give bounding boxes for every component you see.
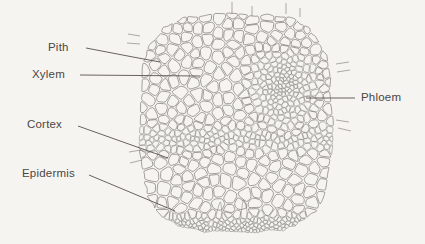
cell xyxy=(281,224,285,228)
cell xyxy=(303,64,309,72)
cell xyxy=(223,204,235,212)
cell xyxy=(310,44,322,55)
cell xyxy=(246,132,252,138)
cell xyxy=(291,62,297,67)
cell xyxy=(182,221,186,226)
cell xyxy=(241,200,247,219)
cell xyxy=(209,142,215,147)
cell xyxy=(245,16,259,25)
cell xyxy=(206,230,209,232)
cell xyxy=(267,126,276,133)
cell xyxy=(181,32,192,42)
cell xyxy=(296,66,303,72)
cell xyxy=(274,215,278,221)
cell xyxy=(213,134,219,139)
cell xyxy=(260,229,264,232)
cell xyxy=(305,208,316,217)
cell xyxy=(245,45,256,55)
cell xyxy=(300,48,309,56)
cell xyxy=(294,84,297,88)
cell xyxy=(255,106,263,113)
cell xyxy=(192,36,203,48)
cell xyxy=(203,22,215,33)
cell xyxy=(156,209,168,217)
cell xyxy=(187,17,197,24)
cell xyxy=(203,89,213,100)
cell xyxy=(278,68,282,73)
cell xyxy=(214,186,226,197)
cell xyxy=(220,142,228,150)
cell xyxy=(242,79,252,89)
cell xyxy=(204,217,210,222)
cell xyxy=(145,181,156,193)
cell xyxy=(200,101,214,112)
cell xyxy=(273,103,278,109)
cell xyxy=(256,229,259,233)
cell xyxy=(181,43,193,54)
cell xyxy=(304,138,311,143)
cell xyxy=(302,80,308,85)
cut-cell-wall xyxy=(128,34,140,36)
label-xylem: Xylem xyxy=(32,68,65,80)
leader-line-pith xyxy=(86,48,160,62)
cell xyxy=(271,133,277,140)
cell xyxy=(144,168,159,181)
cell xyxy=(314,100,324,108)
cell xyxy=(260,81,266,87)
cell xyxy=(256,135,260,140)
cell xyxy=(272,43,280,52)
cell xyxy=(185,211,190,220)
cell xyxy=(257,88,263,95)
cell xyxy=(256,31,268,43)
cell xyxy=(193,152,203,160)
cell xyxy=(161,167,173,181)
cell xyxy=(270,30,282,41)
cell xyxy=(150,130,157,137)
cell xyxy=(237,121,245,130)
cell xyxy=(291,39,300,47)
cell xyxy=(219,78,232,92)
cell xyxy=(177,17,186,24)
cell xyxy=(289,82,293,85)
cell xyxy=(140,102,147,113)
leader-line-xylem xyxy=(80,75,200,76)
cell xyxy=(319,122,327,131)
cell xyxy=(245,117,254,125)
label-cortex: Cortex xyxy=(27,118,62,130)
cell xyxy=(293,22,303,31)
cell xyxy=(251,64,259,72)
cell xyxy=(180,225,184,227)
cell xyxy=(213,93,223,107)
cell xyxy=(258,114,264,122)
cell xyxy=(171,187,182,199)
cell xyxy=(323,68,330,78)
cell xyxy=(233,210,241,219)
cell xyxy=(234,224,239,228)
cell xyxy=(238,90,249,99)
cell xyxy=(190,136,195,141)
cell xyxy=(255,42,263,51)
cell xyxy=(251,187,261,198)
cell xyxy=(323,103,332,115)
cell xyxy=(209,175,219,187)
cell xyxy=(288,121,295,130)
cell xyxy=(266,79,273,84)
cell xyxy=(264,215,269,220)
cell xyxy=(297,61,304,67)
cell xyxy=(268,72,274,77)
cell xyxy=(244,136,249,142)
cell xyxy=(234,129,241,136)
cell xyxy=(241,130,247,136)
cell xyxy=(213,222,217,227)
cell xyxy=(200,74,212,87)
cell xyxy=(216,202,222,219)
cell xyxy=(147,120,158,128)
cell xyxy=(250,217,254,222)
cell xyxy=(274,228,278,230)
cell xyxy=(283,118,291,124)
cell xyxy=(198,143,204,150)
cell xyxy=(293,81,298,85)
cell xyxy=(249,139,255,144)
cell xyxy=(282,84,286,88)
cell xyxy=(294,92,299,97)
